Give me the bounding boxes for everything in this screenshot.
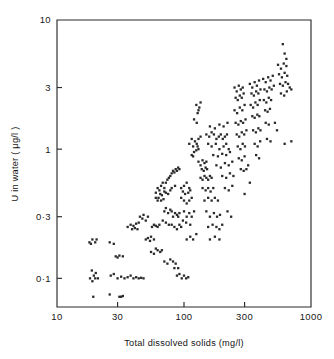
data-point [215,138,217,140]
data-point [270,99,272,101]
data-point [252,106,254,108]
data-point [210,177,212,179]
data-point [191,138,193,140]
data-point [274,122,276,124]
data-point [163,187,165,189]
data-point [207,197,209,199]
data-point [185,277,187,279]
data-point [185,221,187,223]
data-point [281,76,283,78]
data-point [239,94,241,96]
data-point [254,143,256,145]
data-point [278,73,280,75]
data-point [194,140,196,142]
data-point [162,182,164,184]
data-point [222,145,224,147]
data-point [109,241,111,243]
data-point [226,210,228,212]
data-point [97,277,99,279]
data-point [209,216,211,218]
data-point [255,154,257,156]
data-point [266,90,268,92]
data-point [167,193,169,195]
data-point [238,136,240,138]
data-point [259,88,261,90]
data-point [122,255,124,257]
data-point [192,238,194,240]
y-tick-label: 0·3 [36,211,51,222]
data-point [138,277,140,279]
data-point [153,238,155,240]
data-point [238,157,240,159]
data-point [156,187,158,189]
data-point [220,166,222,168]
data-point [287,83,289,85]
data-point [116,277,118,279]
data-point [186,216,188,218]
data-point [238,85,240,87]
data-point [258,157,260,159]
data-point [284,81,286,83]
x-tick-label: 1000 [300,311,323,322]
data-point [285,65,287,67]
data-point [280,92,282,94]
data-point [242,143,244,145]
scatter-plot-figure: 10301003001000 0·10·31310 Total dissolve… [0,0,334,359]
data-point [150,236,152,238]
x-tick-label: 300 [236,311,253,322]
data-point [147,237,149,239]
data-point [187,192,189,194]
data-point [263,99,265,101]
data-point [188,199,190,201]
data-point [210,131,212,133]
data-point [174,185,176,187]
data-point [219,214,221,216]
data-point [142,214,144,216]
data-point [252,129,254,131]
data-point [259,140,261,142]
data-point [115,255,117,257]
data-point [166,262,168,264]
data-point [243,92,245,94]
data-point [268,123,270,125]
data-point [283,52,285,54]
data-point [215,226,217,228]
data-point [156,249,158,251]
data-point [272,75,274,77]
data-point [191,216,193,218]
data-point [232,175,234,177]
data-point [259,99,261,101]
data-point [201,179,203,181]
data-point [216,216,218,218]
data-point [163,260,165,262]
data-point [277,64,279,66]
data-point [249,182,251,184]
data-point [150,251,152,253]
data-point [267,76,269,78]
data-point [168,224,170,226]
data-point [189,236,191,238]
data-point [213,133,215,135]
data-point [224,136,226,138]
data-point [256,104,258,106]
data-point [165,182,167,184]
data-point [218,148,220,150]
data-point [165,207,167,209]
data-point [276,129,278,131]
data-point [215,143,217,145]
data-point [156,199,158,201]
data-point [241,159,243,161]
data-point [129,274,131,276]
data-point [171,210,173,212]
data-point [161,249,163,251]
data-point [243,193,245,195]
data-point [201,187,203,189]
data-point [218,238,220,240]
data-point [283,94,285,96]
data-point [226,122,228,124]
x-tick-label: 30 [112,311,123,322]
data-point [283,62,285,64]
data-point [140,277,142,279]
data-point [221,175,223,177]
data-point [171,224,173,226]
